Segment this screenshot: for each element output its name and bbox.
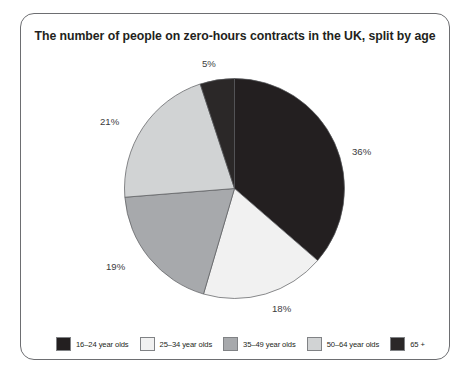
legend-swatch (56, 337, 71, 351)
chart-frame: The number of people on zero-hours contr… (20, 13, 450, 360)
legend-item: 16–24 year olds (56, 337, 129, 351)
legend-item: 25–34 year olds (140, 337, 213, 351)
legend-label: 16–24 year olds (76, 340, 129, 349)
legend-swatch (390, 337, 405, 351)
legend-item: 65 + (390, 337, 425, 351)
legend-label: 25–34 year olds (160, 340, 213, 349)
chart-legend: 16–24 year olds25–34 year olds35–49 year… (56, 336, 426, 352)
legend-swatch (140, 337, 155, 351)
legend-swatch (223, 337, 238, 351)
legend-swatch (307, 337, 322, 351)
legend-label: 50–64 year olds (327, 340, 380, 349)
legend-label: 65 + (410, 340, 425, 349)
legend-label: 35–49 year olds (243, 340, 296, 349)
legend-item: 35–49 year olds (223, 337, 296, 351)
legend-item: 50–64 year olds (307, 337, 380, 351)
chart-title: The number of people on zero-hours contr… (21, 29, 449, 43)
